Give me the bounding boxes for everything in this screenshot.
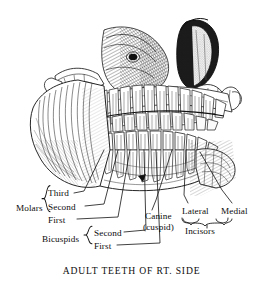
tooth-label-canine-sublabel: (cuspid) bbox=[143, 222, 174, 232]
tooth-label-first-molar: First bbox=[48, 215, 65, 225]
tooth-label-third-molar: Third bbox=[48, 188, 69, 198]
brace-incisors-right bbox=[216, 219, 232, 225]
anatomical-figure: Molars Third Second First Bicuspids Seco… bbox=[0, 0, 263, 285]
figure-caption: ADULT TEETH OF RT. SIDE bbox=[0, 265, 263, 276]
tooth-label-second-bicuspid: Second bbox=[94, 228, 122, 238]
tooth-label-canine: Canine bbox=[145, 211, 172, 221]
tooth-label-second-molar: Second bbox=[48, 202, 76, 212]
tooth-label-lateral-incisor: Lateral bbox=[182, 206, 209, 216]
group-label-molars: Molars bbox=[16, 203, 43, 213]
nasal-aperture bbox=[176, 18, 222, 94]
group-label-incisors: Incisors bbox=[185, 226, 215, 236]
group-label-bicuspids: Bicuspids bbox=[42, 234, 79, 244]
skull-teeth-engraving bbox=[0, 0, 263, 285]
tooth-label-first-bicuspid: First bbox=[94, 241, 111, 251]
incisors-brace-group bbox=[182, 218, 228, 226]
tooth-label-medial-incisor: Medial bbox=[221, 206, 248, 216]
brace-bicuspids bbox=[84, 226, 92, 244]
brace-incisors-left bbox=[183, 219, 199, 225]
